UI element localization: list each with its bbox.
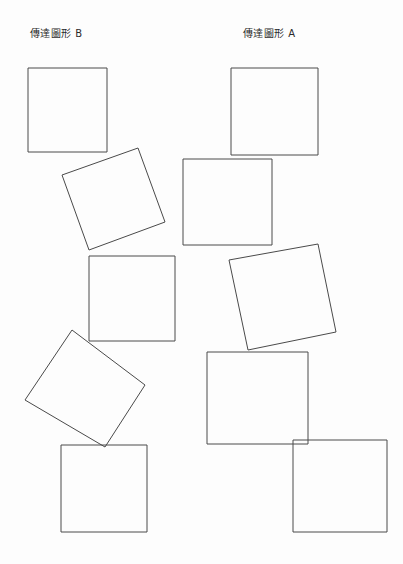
square-a2 — [183, 159, 272, 245]
square-b1 — [28, 68, 107, 152]
square-b3 — [89, 256, 175, 341]
square-b2 — [62, 148, 165, 250]
square-a5 — [293, 440, 387, 532]
squares-diagram — [0, 0, 403, 564]
square-b5 — [61, 445, 147, 532]
square-a1 — [231, 68, 318, 155]
figure-b-shape-group — [25, 68, 175, 532]
square-a4 — [207, 352, 308, 444]
square-b4 — [25, 330, 145, 447]
figure-a-shape-group — [183, 68, 387, 532]
worksheet-page: 傳達圖形 B 傳達圖形 A — [0, 0, 403, 564]
square-a3 — [229, 244, 336, 350]
